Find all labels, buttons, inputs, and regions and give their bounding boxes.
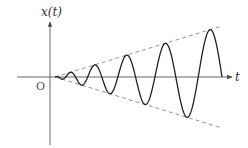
origin-label: O [36, 80, 45, 93]
oscillation-curve [55, 30, 222, 118]
diagram: x(t) t O [0, 0, 248, 148]
x-axis-label: t [235, 70, 240, 84]
upper-envelope [55, 26, 222, 77]
y-axis-label: x(t) [41, 5, 62, 19]
